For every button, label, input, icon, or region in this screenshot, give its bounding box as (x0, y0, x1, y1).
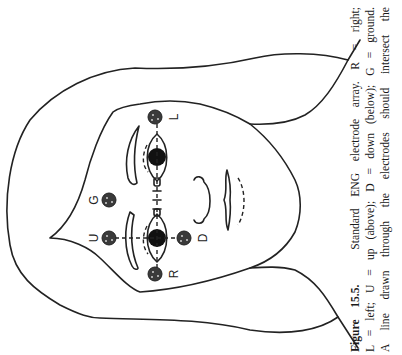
electrode-L (148, 110, 162, 124)
electrode-G (102, 193, 116, 207)
alignment-tick-marks (153, 191, 161, 209)
label-U: U (87, 234, 101, 243)
caption-line-1: Figure 15.5. Standard ENG electrode arra… (348, 7, 363, 352)
electrode-D (177, 231, 191, 245)
caption-text-1: Standard ENG electrode array. R = right; (349, 7, 362, 250)
electrode-U (102, 231, 116, 245)
face-electrode-diagram: L R U D G (0, 0, 402, 355)
mouth-upper (224, 170, 230, 230)
eye-right (143, 209, 166, 262)
figure: L R U D G (0, 0, 402, 355)
mouth-lower (238, 178, 244, 225)
eyebrow-right (126, 212, 138, 269)
nose (194, 177, 210, 223)
hair-inner-top (250, 60, 348, 124)
eye-left (143, 134, 166, 186)
eyebrow-left (126, 126, 139, 184)
caption-line-2: L = left; U = up (above); D = down (belo… (363, 7, 378, 352)
hair-outline (7, 40, 360, 348)
caption-label: Figure 15.5. (349, 285, 362, 352)
label-L: L (167, 113, 181, 120)
electrode-R (148, 267, 162, 281)
caption-line-3: A line drawn through the electrodes shou… (378, 7, 393, 352)
hair-inner-bottom (250, 267, 338, 317)
label-R: R (167, 269, 181, 278)
label-D: D (196, 233, 210, 242)
label-G: G (87, 195, 101, 204)
figure-caption: Figure 15.5. Standard ENG electrode arra… (348, 7, 400, 352)
